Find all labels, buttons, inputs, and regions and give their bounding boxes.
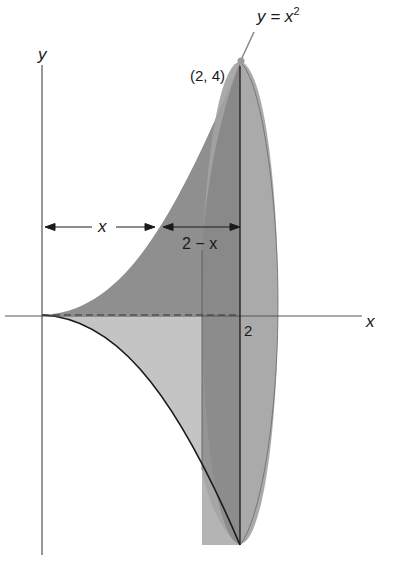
y-axis-label: y bbox=[37, 45, 48, 64]
curve-leader-line bbox=[241, 32, 254, 60]
solid-of-revolution-diagram: y = x2 (2, 4) y x 2 x 2 − x bbox=[0, 0, 394, 572]
point-2-4-marker bbox=[238, 58, 245, 65]
dim-x-label: x bbox=[97, 217, 107, 236]
tick-label-2: 2 bbox=[244, 322, 252, 339]
x-axis-label: x bbox=[365, 312, 375, 331]
point-label: (2, 4) bbox=[190, 67, 225, 84]
curve-label: y = x2 bbox=[256, 5, 300, 26]
dim-2mx-label: 2 − x bbox=[182, 235, 217, 252]
